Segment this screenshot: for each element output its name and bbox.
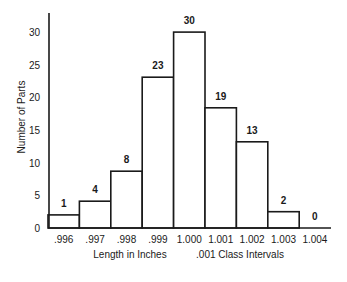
x-tick-label: .997 [85,234,105,245]
x-tick-label: 1.000 [177,234,202,245]
y-axis-label: Number of Parts [16,81,27,154]
histogram-bar [142,77,173,228]
bars-group [48,32,299,228]
x-tick-labels: .996.997.998.9991.0001.0011.0021.0031.00… [54,234,328,245]
bar-value-label: 4 [92,184,98,195]
x-tick-label: .999 [148,234,168,245]
bar-value-label: 8 [124,154,130,165]
x-axis-note: .001 Class Intervals [196,249,284,260]
histogram-bar [268,212,299,228]
bar-value-label: 19 [215,91,227,102]
histogram-bar [205,108,236,228]
bar-value-label: 2 [281,195,287,206]
bar-value-label: 23 [152,60,164,71]
y-tick-label: 15 [29,125,41,136]
bar-value-label: 30 [184,15,196,26]
histogram-bar [48,215,79,228]
histogram-bar [236,142,267,228]
bar-value-label: 13 [247,125,259,136]
chart-canvas: 1482330191320 051015202530 .996.997.998.… [0,0,347,282]
x-axis-label: Length in Inches [93,249,166,260]
histogram-bar [79,201,110,228]
y-tick-label: 25 [29,60,41,71]
y-tick-label: 5 [34,190,40,201]
histogram-bar [111,171,142,228]
histogram-chart: 1482330191320 051015202530 .996.997.998.… [0,0,347,282]
y-tick-label: 0 [34,223,40,234]
x-tick-label: 1.003 [271,234,296,245]
x-tick-label: .998 [117,234,137,245]
y-tick-labels: 051015202530 [29,27,41,234]
y-tick-label: 20 [29,92,41,103]
x-tick-label: 1.001 [208,234,233,245]
y-tick-label: 10 [29,158,41,169]
x-tick-label: 1.004 [302,234,327,245]
bar-value-label: 1 [61,198,67,209]
histogram-bar [174,32,205,228]
x-tick-label: 1.002 [240,234,265,245]
y-tick-label: 30 [29,27,41,38]
x-tick-label: .996 [54,234,74,245]
bar-value-label: 0 [312,211,318,222]
